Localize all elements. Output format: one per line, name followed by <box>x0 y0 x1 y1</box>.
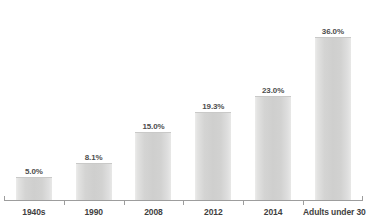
bar-slot: 23.0% <box>243 0 303 200</box>
x-axis-end-cap-left <box>4 196 5 201</box>
bar-slot: 19.3% <box>183 0 243 200</box>
x-axis-tick <box>243 200 244 205</box>
bar-value-label: 23.0% <box>262 86 284 95</box>
bar-value-label: 5.0% <box>25 167 43 176</box>
table-row[interactable] <box>16 177 52 201</box>
x-axis-tick-label: 2008 <box>124 207 184 218</box>
x-axis-tick <box>303 200 304 205</box>
bar-slot: 8.1% <box>64 0 124 200</box>
bar-value-label: 36.0% <box>322 27 344 36</box>
table-row[interactable] <box>195 112 231 200</box>
x-axis-tick <box>64 200 65 205</box>
bar-slot: 36.0% <box>303 0 363 200</box>
bar-slot: 15.0% <box>124 0 184 200</box>
table-row[interactable] <box>135 132 171 201</box>
x-axis-end-cap-right <box>362 196 363 201</box>
x-axis-tick-label: 2012 <box>183 207 243 218</box>
bar-chart: 5.0% 8.1% 15.0% 19.3% 23.0% 36.0% <box>0 0 367 222</box>
x-axis-tick-label: 1990 <box>64 207 124 218</box>
x-axis-tick-label: Adults under 30 <box>303 207 363 218</box>
x-axis-tick <box>124 200 125 205</box>
x-axis-tick-label: 2014 <box>243 207 303 218</box>
table-row[interactable] <box>76 163 112 200</box>
plot-area: 5.0% 8.1% 15.0% 19.3% 23.0% 36.0% <box>4 0 363 200</box>
x-axis-tick-label: 1940s <box>4 207 64 218</box>
x-axis-labels: 1940s 1990 2008 2012 2014 Adults under 3… <box>4 207 363 221</box>
bar-value-label: 19.3% <box>202 102 224 111</box>
table-row[interactable] <box>255 96 291 201</box>
bar-value-label: 15.0% <box>142 122 164 131</box>
x-axis-tick <box>183 200 184 205</box>
bar-slot: 5.0% <box>4 0 64 200</box>
bar-value-label: 8.1% <box>85 153 103 162</box>
table-row[interactable] <box>315 37 351 200</box>
